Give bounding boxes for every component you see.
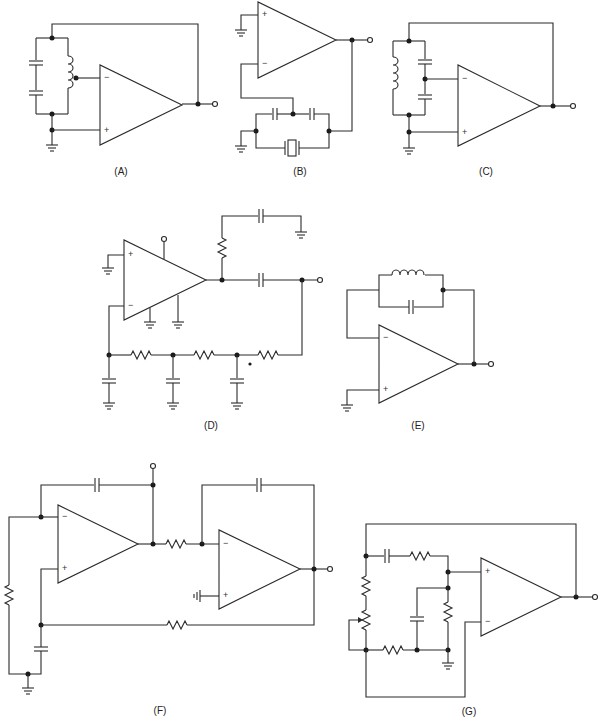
ground-icon xyxy=(103,403,115,409)
panel-label-g: (G) xyxy=(462,706,476,717)
output-terminal-e xyxy=(489,362,494,367)
inductor-c xyxy=(393,57,398,89)
inverting-input-sign-c: − xyxy=(462,74,467,83)
resistor-d-out xyxy=(218,238,226,258)
supply-terminal-d xyxy=(162,237,167,242)
resistor-d-2 xyxy=(194,351,214,359)
inverting-input-sign-e: − xyxy=(383,333,388,342)
resistor-f-left xyxy=(5,585,13,605)
opamp-g xyxy=(481,558,561,636)
inductor-a xyxy=(68,56,73,88)
circuit-e xyxy=(341,270,494,411)
resistor-g-shunt xyxy=(444,602,452,622)
inverting-input-sign-f1: − xyxy=(62,512,67,521)
inverting-input-sign-g: − xyxy=(485,617,490,626)
panel-label-c: (C) xyxy=(479,166,493,177)
opamp-c xyxy=(458,65,540,146)
ground-icon xyxy=(235,30,247,36)
inductor-e xyxy=(392,270,424,275)
noninverting-input-sign-f2: + xyxy=(223,591,228,600)
ground-icon xyxy=(167,403,179,409)
output-terminal-a xyxy=(213,102,218,107)
noninverting-input-sign-e: + xyxy=(383,385,388,394)
output-terminal-c xyxy=(571,104,576,109)
output-terminal-d xyxy=(318,278,323,283)
resistor-d-1 xyxy=(131,351,151,359)
circuit-c xyxy=(393,23,576,154)
ground-icon xyxy=(295,232,307,238)
panel-label-f: (F) xyxy=(154,705,167,716)
potentiometer-g xyxy=(362,610,370,630)
resistor-f-mid xyxy=(166,540,186,548)
ground-icon xyxy=(144,322,156,328)
circuit-g xyxy=(349,524,598,697)
opamp-a xyxy=(100,65,182,145)
noninverting-input-sign-a: + xyxy=(104,126,109,135)
resistor-g-divider xyxy=(362,576,370,596)
ground-icon xyxy=(442,663,454,669)
output-terminal-f-2 xyxy=(328,567,333,572)
schematic-canvas xyxy=(0,0,601,723)
ground-icon xyxy=(235,146,247,152)
circuit-b xyxy=(235,2,373,156)
opamp-f-1 xyxy=(58,505,138,583)
ground-icon xyxy=(22,688,34,694)
ground-icon xyxy=(172,322,184,328)
opamp-f-2 xyxy=(219,530,300,609)
ground-icon xyxy=(403,148,415,154)
output-terminal-f-1 xyxy=(151,464,156,469)
ground-icon xyxy=(231,403,243,409)
crystal-b xyxy=(288,140,296,156)
circuit-f xyxy=(5,464,333,695)
inverting-input-sign-f2: − xyxy=(223,539,228,548)
inverting-input-sign-a: − xyxy=(104,73,109,82)
ground-icon xyxy=(46,145,58,151)
noninverting-input-sign-b: + xyxy=(262,10,267,19)
opamp-b xyxy=(258,2,336,78)
panel-label-d: (D) xyxy=(204,420,218,431)
ground-icon xyxy=(341,405,353,411)
circuit-a xyxy=(29,24,218,151)
resistor-f-bottom xyxy=(167,621,187,629)
output-terminal-b xyxy=(368,38,373,43)
noninverting-input-sign-f1: + xyxy=(62,564,67,573)
inverting-input-sign-d: − xyxy=(128,301,133,310)
output-terminal-g xyxy=(593,595,598,600)
opamp-e xyxy=(379,325,458,403)
opamp-d xyxy=(124,240,206,320)
resistor-d-3 xyxy=(258,351,278,359)
panel-label-b: (B) xyxy=(293,166,306,177)
noninverting-input-sign-d: + xyxy=(128,250,133,259)
inverting-input-sign-b: − xyxy=(262,59,267,68)
resistor-g-series xyxy=(410,552,430,560)
panel-label-e: (E) xyxy=(411,420,424,431)
circuit-d xyxy=(102,209,323,409)
noninverting-input-sign-g: + xyxy=(485,567,490,576)
ground-icon xyxy=(102,268,114,274)
panel-label-a: (A) xyxy=(114,166,127,177)
resistor-g-bottom xyxy=(383,646,403,654)
noninverting-input-sign-c: + xyxy=(462,128,467,137)
